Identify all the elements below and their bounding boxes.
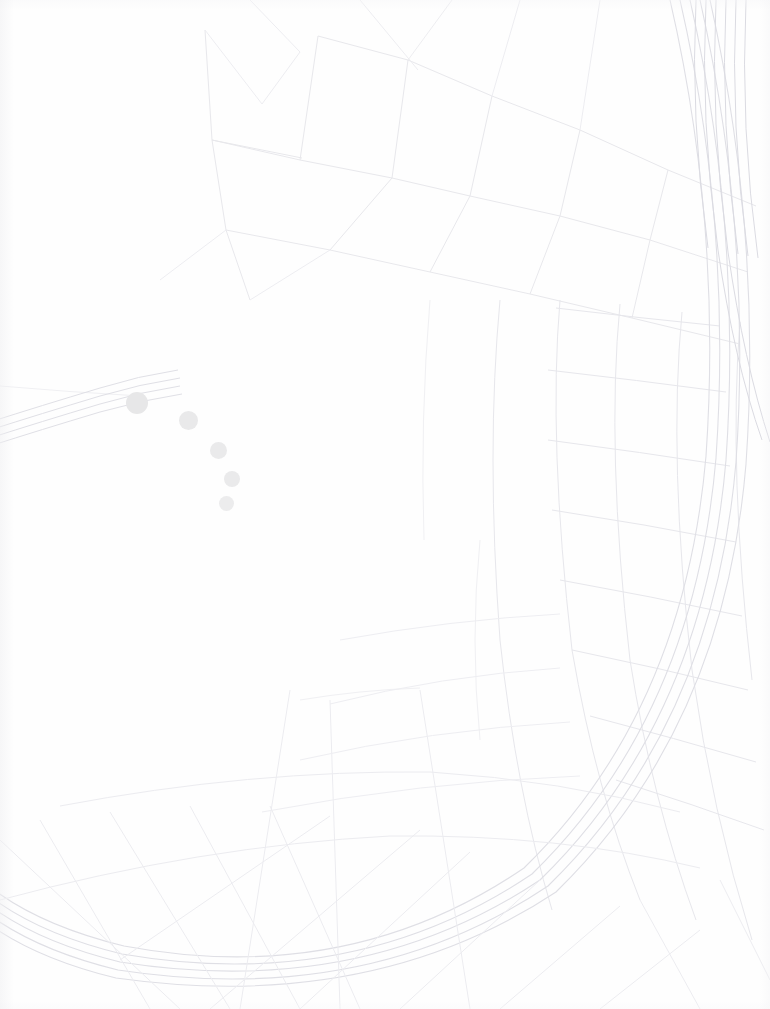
spinner-dot-5 (219, 496, 234, 511)
spinner-dot-2 (179, 411, 198, 430)
map-application-window (0, 0, 770, 1009)
loading-spinner (110, 378, 260, 528)
radial-freeway (695, 0, 770, 442)
spinner-dot-3 (210, 442, 227, 459)
street-grid-north (205, 30, 756, 344)
spinner-dot-1 (126, 392, 148, 414)
street-grid-east (493, 300, 764, 940)
arterial-roads-north (160, 0, 600, 300)
spinner-dot-4 (224, 471, 240, 487)
